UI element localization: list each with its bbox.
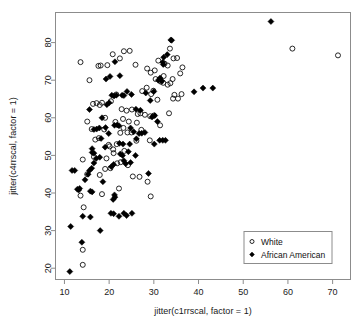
data-point-white <box>105 63 110 68</box>
series-african-american <box>67 19 274 275</box>
legend-label-african-american: African American <box>261 250 326 260</box>
data-point-white <box>145 179 150 184</box>
data-point-african-american <box>80 213 86 219</box>
data-point-white <box>142 112 147 117</box>
data-point-white <box>124 108 129 113</box>
data-point-white <box>121 49 126 54</box>
y-axis-title: jitter(c4rrscal, factor = 1) <box>8 97 18 195</box>
data-point-white <box>85 119 90 124</box>
data-point-white <box>145 66 150 71</box>
data-point-white <box>179 92 184 97</box>
data-point-white <box>178 71 183 76</box>
data-point-african-american <box>100 179 106 185</box>
data-point-african-american <box>147 97 153 103</box>
data-point-african-american <box>154 119 160 125</box>
data-point-african-american <box>200 85 206 91</box>
data-point-white <box>175 96 180 101</box>
data-point-white <box>152 68 157 73</box>
y-tick-label: 60 <box>43 113 53 123</box>
data-point-white <box>134 120 139 125</box>
data-point-white <box>120 116 125 121</box>
data-point-white <box>126 119 131 124</box>
data-point-white <box>99 192 104 197</box>
data-point-white <box>87 78 92 83</box>
data-point-white <box>80 247 85 252</box>
data-point-african-american <box>67 269 73 275</box>
data-point-white <box>104 156 109 161</box>
data-point-african-american <box>87 214 93 220</box>
data-point-african-american <box>79 239 85 245</box>
data-point-african-american <box>143 90 149 96</box>
x-tick-label: 60 <box>283 287 293 297</box>
data-point-white <box>97 172 102 177</box>
data-point-white <box>144 85 149 90</box>
data-point-african-american <box>191 89 197 95</box>
data-point-white <box>290 46 295 51</box>
data-point-african-american <box>103 125 109 131</box>
data-point-white <box>78 193 83 198</box>
data-point-african-american <box>112 59 118 65</box>
data-point-white <box>118 130 123 135</box>
data-point-white <box>81 205 86 210</box>
data-point-white <box>137 174 142 179</box>
data-point-african-american <box>117 73 123 79</box>
data-point-african-american <box>129 210 135 216</box>
data-point-african-american <box>145 170 151 176</box>
data-point-white <box>175 56 180 61</box>
plot-canvas: 1020304050607020304050607080 jitter(c1rr… <box>0 0 362 335</box>
scatter-plot-figure: 1020304050607020304050607080 jitter(c1rr… <box>0 0 362 335</box>
data-point-african-american <box>128 160 134 166</box>
data-point-white <box>167 111 172 116</box>
x-tick-label: 10 <box>59 287 69 297</box>
data-point-white <box>116 186 121 191</box>
y-tick-label: 20 <box>43 263 53 273</box>
data-point-african-american <box>116 213 122 219</box>
x-tick-label: 30 <box>149 287 159 297</box>
data-point-african-american <box>268 19 274 25</box>
legend-label-white: White <box>261 237 283 247</box>
data-point-african-american <box>133 152 139 158</box>
x-tick-label: 20 <box>104 287 114 297</box>
data-point-white <box>147 138 152 143</box>
y-tick-label: 40 <box>43 188 53 198</box>
data-point-white <box>180 65 185 70</box>
data-point-white <box>133 62 138 67</box>
data-point-white <box>117 56 122 61</box>
data-point-white <box>167 46 172 51</box>
x-tick-label: 70 <box>328 287 338 297</box>
y-tick-label: 70 <box>43 75 53 85</box>
data-point-white <box>80 262 85 267</box>
data-point-african-american <box>127 141 133 147</box>
data-point-white <box>127 48 132 53</box>
data-point-african-american <box>86 107 92 113</box>
data-point-african-american <box>97 228 103 234</box>
data-point-white <box>148 194 153 199</box>
y-tick-label: 50 <box>43 150 53 160</box>
data-point-white <box>78 60 83 65</box>
data-point-african-american <box>68 223 74 229</box>
data-point-white <box>80 157 85 162</box>
x-tick-label: 40 <box>194 287 204 297</box>
data-point-african-american <box>106 131 112 137</box>
data-point-white <box>110 52 115 57</box>
x-axis-title: jitter(c1rrscal, factor = 1) <box>153 306 251 316</box>
y-tick-label: 30 <box>43 226 53 236</box>
data-point-white <box>155 97 160 102</box>
y-tick-label: 80 <box>43 38 53 48</box>
x-tick-label: 50 <box>238 287 248 297</box>
legend: WhiteAfrican American <box>244 232 332 264</box>
data-point-white <box>103 166 108 171</box>
data-point-white <box>130 174 135 179</box>
data-point-african-american <box>210 85 216 91</box>
data-point-white <box>107 144 112 149</box>
data-point-african-american <box>82 177 88 183</box>
data-point-white <box>335 53 340 58</box>
data-point-white <box>119 107 124 112</box>
